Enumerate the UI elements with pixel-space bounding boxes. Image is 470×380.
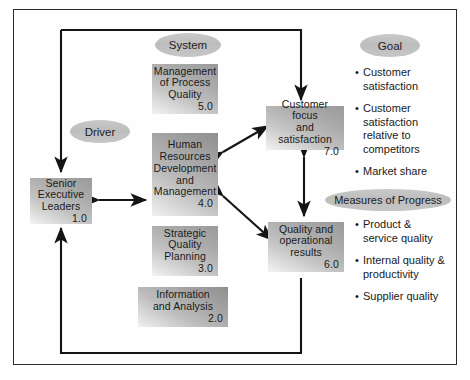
- list-item: • Supplier quality: [355, 290, 467, 304]
- bullet-marker: •: [355, 218, 363, 232]
- list-item-text: Product & service quality: [363, 218, 433, 245]
- text-line: productivity: [363, 268, 419, 280]
- text-line: competitors: [363, 143, 420, 155]
- diagram-canvas: System Driver Goal Measures of Progress …: [0, 0, 470, 380]
- box-line: Planning: [161, 251, 209, 263]
- box-line: and satisfaction: [266, 122, 344, 146]
- box-number: 4.0: [152, 198, 218, 210]
- label-driver: Driver: [70, 120, 130, 143]
- box-management-of-process-quality[interactable]: Management of Process Quality 5.0: [152, 64, 218, 114]
- list-item-text: Supplier quality: [363, 290, 438, 304]
- list-item: • Product & service quality: [355, 218, 467, 245]
- box-line: results: [287, 247, 325, 259]
- box-line: Quality: [165, 89, 204, 101]
- text-line: Customer: [363, 66, 411, 78]
- label-goal-text: Goal: [378, 40, 402, 52]
- text-line: satisfaction: [363, 116, 418, 128]
- list-item-text: Market share: [363, 165, 427, 179]
- box-number: 5.0: [152, 101, 218, 113]
- box-number: 6.0: [268, 259, 344, 271]
- bullet-marker: •: [355, 165, 363, 179]
- box-human-resources-development-and-management[interactable]: Human Resources Development and Manageme…: [152, 133, 218, 216]
- box-line: Customer focus: [266, 99, 344, 123]
- box-senior-executive-leaders[interactable]: Senior Executive Leaders 1.0: [30, 178, 92, 224]
- box-quality-and-operational-results[interactable]: Quality and operational results 6.0: [268, 222, 344, 272]
- box-information-and-analysis[interactable]: Information and Analysis 2.0: [138, 287, 228, 327]
- text-line: Supplier quality: [363, 290, 438, 302]
- box-strategic-quality-planning[interactable]: Strategic Quality Planning 3.0: [152, 226, 218, 276]
- bullet-marker: •: [355, 66, 363, 80]
- text-line: relative to: [363, 129, 411, 141]
- text-line: Internal quality &: [363, 254, 445, 266]
- text-line: Customer: [363, 102, 411, 114]
- label-measures-of-progress: Measures of Progress: [325, 189, 451, 211]
- text-line: satisfaction: [363, 80, 418, 92]
- bullet-marker: •: [355, 102, 363, 116]
- label-measures-of-progress-text: Measures of Progress: [334, 194, 442, 206]
- box-line: Resources: [156, 151, 213, 163]
- label-system-text: System: [169, 39, 207, 51]
- bullet-marker: •: [355, 254, 363, 268]
- list-item: • Internal quality & productivity: [355, 254, 467, 281]
- text-line: service quality: [363, 232, 433, 244]
- box-number: 2.0: [138, 313, 228, 325]
- box-number: 3.0: [152, 263, 218, 275]
- box-number: 1.0: [30, 213, 92, 225]
- text-line: Product &: [363, 218, 411, 230]
- label-system: System: [155, 33, 221, 57]
- list-item-text: Internal quality & productivity: [363, 254, 445, 281]
- list-item-text: Customer satisfaction: [363, 66, 418, 93]
- bullet-marker: •: [355, 290, 363, 304]
- box-line: Leaders: [39, 201, 84, 213]
- label-driver-text: Driver: [85, 126, 116, 138]
- list-item-text: Customer satisfaction relative to compet…: [363, 102, 420, 156]
- measures-bullet-list: • Product & service quality • Internal q…: [355, 218, 467, 313]
- goal-bullet-list: • Customer satisfaction • Customer satis…: [355, 66, 463, 188]
- text-line: Market share: [363, 165, 427, 177]
- label-goal: Goal: [360, 34, 420, 57]
- box-line: and Analysis: [150, 301, 216, 313]
- box-line: Development: [151, 163, 220, 175]
- list-item: • Customer satisfaction relative to comp…: [355, 102, 463, 156]
- list-item: • Market share: [355, 165, 463, 179]
- box-customer-focus-and-satisfaction[interactable]: Customer focus and satisfaction 7.0: [266, 106, 344, 150]
- list-item: • Customer satisfaction: [355, 66, 463, 93]
- box-number: 7.0: [266, 146, 344, 158]
